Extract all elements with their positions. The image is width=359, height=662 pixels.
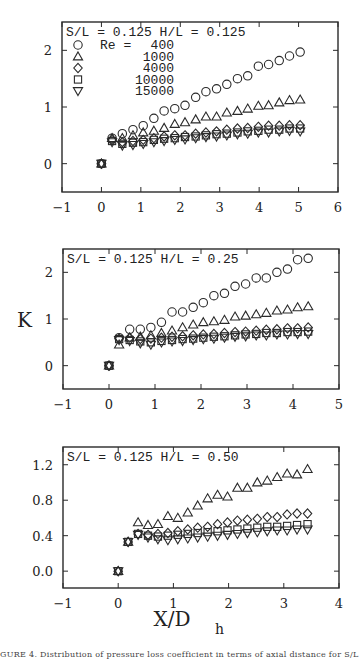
x-tick-label: −1 [53, 596, 72, 611]
data-point-diamond [108, 135, 116, 144]
data-point-diamond [154, 529, 162, 538]
legend-marker-triangle-up [73, 52, 82, 60]
data-point-circle [150, 114, 158, 122]
data-point-diamond [212, 127, 220, 136]
data-point-square [264, 523, 271, 530]
data-point-diamond [193, 523, 201, 532]
data-point-circle [254, 62, 262, 70]
y-tick-label: 1.2 [32, 458, 53, 473]
data-point-diamond [184, 525, 192, 534]
data-point-triangle-up [292, 470, 301, 478]
data-point-circle [252, 274, 260, 282]
series-10000 [125, 521, 312, 546]
data-point-circle [220, 289, 228, 297]
data-point-circle [210, 291, 218, 299]
data-point-circle [168, 308, 176, 316]
data-point-triangle-up [283, 469, 292, 477]
series-1000 [107, 95, 304, 142]
data-point-triangle-up [285, 96, 294, 104]
data-point-triangle-up [222, 108, 231, 116]
data-point-triangle-up [253, 478, 262, 486]
x-tick-label: 3 [243, 397, 251, 412]
y-tick-label: 0.0 [32, 564, 53, 579]
x-tick-label: 5 [335, 397, 343, 412]
x-tick-label: −1 [52, 200, 71, 215]
legend-title: Re = [100, 38, 131, 53]
data-point-triangle-up [193, 501, 202, 509]
y-tick-label: 0 [45, 359, 53, 374]
legend-marker-triangle-down [73, 88, 82, 96]
data-point-diamond [253, 514, 261, 523]
data-point-triangle-up [163, 512, 172, 520]
data-point-diamond [293, 509, 301, 518]
data-point-triangle-up [223, 492, 232, 500]
legend-label: 15000 [135, 84, 174, 99]
data-point-circle [233, 74, 241, 82]
data-point-circle [157, 318, 165, 326]
data-point-square [293, 521, 300, 528]
x-axis-label: X/D h [153, 607, 224, 637]
data-point-diamond [243, 515, 251, 524]
figure-canvas: −10123456012S/L = 0.125 H/L = 0.125Re =4… [0, 0, 359, 662]
data-point-diamond [223, 518, 231, 527]
data-point-triangle-up [264, 101, 273, 109]
y-tick-label: 1 [44, 100, 52, 115]
data-point-diamond [273, 512, 281, 521]
data-point-circle [275, 56, 283, 64]
data-point-circle [262, 274, 270, 282]
y-tick-label: 0 [44, 157, 52, 172]
data-point-circle [293, 256, 301, 264]
data-point-triangle-up [180, 118, 189, 126]
data-point-triangle-up [233, 483, 242, 491]
data-point-triangle-up [275, 98, 284, 106]
data-point-square [224, 527, 231, 534]
data-point-circle [189, 303, 197, 311]
x-axis-label-subscript: h [215, 621, 224, 637]
data-point-triangle-up [293, 303, 302, 311]
data-point-diamond [283, 510, 291, 519]
data-point-triangle-up [143, 520, 152, 528]
data-point-triangle-up [183, 508, 192, 516]
x-tick-label: 3 [280, 596, 288, 611]
x-tick-label: 1 [151, 397, 159, 412]
data-point-circle [223, 80, 231, 88]
data-point-circle [244, 72, 252, 80]
y-axis-label: K [17, 308, 33, 332]
chart-panel-hl-025: −1012345012S/L = 0.125 H/L = 0.25 [45, 249, 343, 412]
data-point-triangle-up [243, 104, 252, 112]
data-point-triangle-up [230, 312, 239, 320]
data-point-triangle-up [233, 106, 242, 114]
data-point-triangle-up [173, 513, 182, 521]
x-tick-label: −1 [53, 397, 72, 412]
data-point-circle [241, 280, 249, 288]
data-point-square [284, 522, 291, 529]
data-point-triangle-up [213, 490, 222, 498]
data-point-triangle-up [252, 310, 261, 318]
data-point-triangle-up [201, 112, 210, 120]
data-point-circle [160, 107, 168, 115]
data-point-triangle-up [296, 95, 305, 103]
figure-caption: GURE 4. Distribution of pressure loss co… [0, 650, 359, 659]
data-point-diamond [303, 509, 311, 518]
data-point-circle [285, 52, 293, 60]
data-point-circle [296, 48, 304, 56]
series-400 [115, 254, 312, 342]
origin-points [114, 567, 123, 576]
legend-marker-diamond [74, 63, 82, 72]
data-point-circle [273, 268, 281, 276]
data-point-diamond [263, 512, 271, 521]
data-point-circle [178, 308, 186, 316]
data-point-circle [181, 101, 189, 109]
legend: Re =400100040001000015000 [73, 38, 174, 99]
data-point-triangle-up [262, 308, 271, 316]
data-point-square [234, 526, 241, 533]
data-point-triangle-up [254, 101, 263, 109]
origin-points [104, 361, 113, 370]
y-tick-label: 2 [45, 265, 53, 280]
data-point-diamond [233, 516, 241, 525]
x-tick-label: 4 [255, 200, 263, 215]
data-point-triangle-up [272, 306, 281, 314]
data-point-triangle-up [133, 518, 142, 526]
x-tick-label: 2 [224, 596, 232, 611]
data-point-triangle-up [203, 494, 212, 502]
